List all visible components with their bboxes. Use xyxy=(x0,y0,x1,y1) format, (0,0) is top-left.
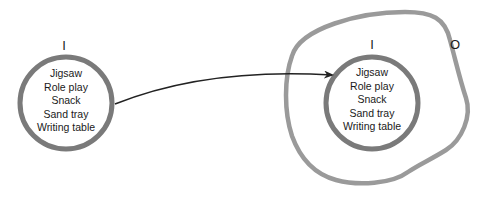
list-item: Role play xyxy=(327,80,417,94)
list-item: Snack xyxy=(327,93,417,107)
list-item: Writing table xyxy=(21,121,111,135)
left-set-label: I xyxy=(62,39,66,53)
list-item: Jigsaw xyxy=(327,66,417,80)
left-set-items: Jigsaw Role play Snack Sand tray Writing… xyxy=(21,67,111,135)
list-item: Writing table xyxy=(327,120,417,134)
transfer-arrow xyxy=(115,74,332,104)
right-set-label: I xyxy=(370,38,374,52)
diagram-canvas: I I O Jigsaw Role play Snack Sand tray W… xyxy=(0,0,481,198)
list-item: Sand tray xyxy=(21,108,111,122)
outer-region-label: O xyxy=(450,38,460,52)
list-item: Jigsaw xyxy=(21,67,111,81)
list-item: Role play xyxy=(21,81,111,95)
right-set-items: Jigsaw Role play Snack Sand tray Writing… xyxy=(327,66,417,134)
list-item: Sand tray xyxy=(327,107,417,121)
list-item: Snack xyxy=(21,94,111,108)
